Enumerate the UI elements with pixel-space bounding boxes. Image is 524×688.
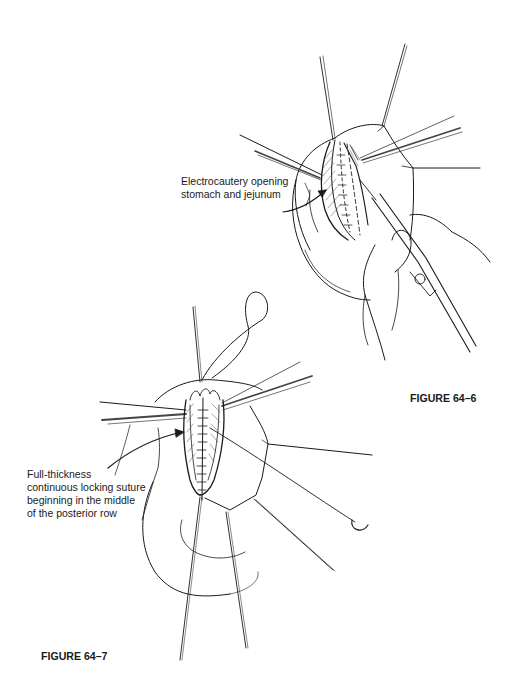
surgical-illustrations bbox=[0, 0, 524, 688]
annotation-line: continuous locking suture bbox=[27, 481, 146, 494]
figure-caption-64-7: FIGURE 64–7 bbox=[41, 650, 107, 662]
annotation-line: beginning in the middle bbox=[27, 494, 146, 507]
annotation-electrocautery: Electrocautery opening stomach and jejun… bbox=[181, 175, 288, 201]
annotation-line: stomach and jejunum bbox=[181, 188, 288, 201]
annotation-locking-suture: Full-thickness continuous locking suture… bbox=[27, 468, 146, 520]
annotation-line: Full-thickness bbox=[27, 468, 146, 481]
figure-caption-64-6: FIGURE 64–6 bbox=[410, 392, 476, 404]
annotation-line: of the posterior row bbox=[27, 507, 146, 520]
annotation-line: Electrocautery opening bbox=[181, 175, 288, 188]
figure-64-6-illustration bbox=[240, 44, 490, 360]
textbook-page: Electrocautery opening stomach and jejun… bbox=[0, 0, 524, 688]
